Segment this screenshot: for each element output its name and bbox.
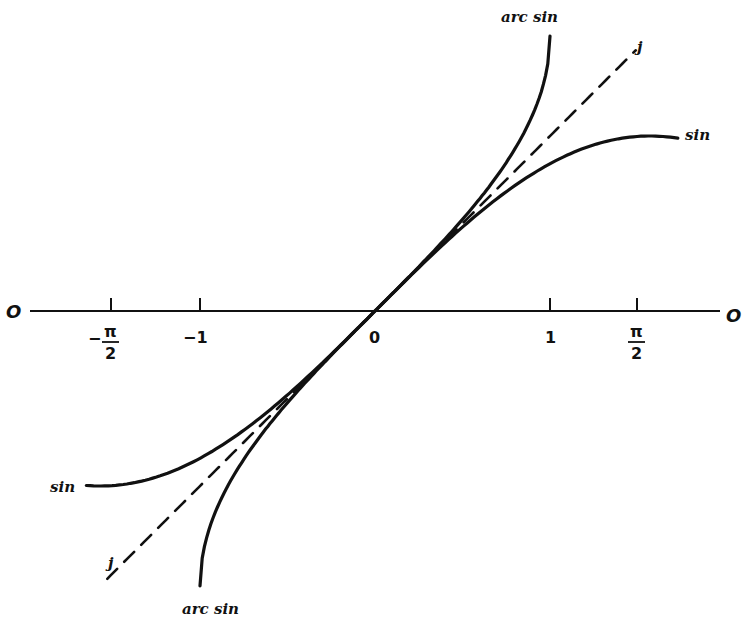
- axis-right-label: O: [726, 305, 741, 326]
- sin-lower-label: sin: [50, 478, 75, 496]
- svg-text:π: π: [630, 322, 643, 341]
- tick-label-zero: 0: [369, 328, 380, 347]
- j-curve: [107, 50, 636, 579]
- tick-label-half-pi: π 2: [628, 322, 645, 363]
- arcsin-upper-label: arc sin: [501, 8, 558, 26]
- tick-label-neg-half-pi: − π 2: [88, 322, 119, 363]
- tick-label-one: 1: [545, 328, 556, 347]
- svg-text:2: 2: [105, 344, 116, 363]
- svg-text:2: 2: [631, 344, 642, 363]
- j-lower-label: j: [105, 554, 114, 572]
- function-plot: O O − π 2 −1 0 1 π 2 arc sin j sin sin j…: [0, 0, 752, 634]
- j-upper-label: j: [634, 38, 643, 56]
- tick-label-neg-one: −1: [183, 328, 208, 347]
- sin-upper-label: sin: [685, 126, 710, 144]
- axis-left-label: O: [6, 301, 21, 322]
- arcsin-lower-label: arc sin: [182, 600, 239, 618]
- svg-text:π: π: [104, 322, 117, 341]
- svg-text:−: −: [88, 329, 101, 348]
- tick-marks: [111, 298, 637, 311]
